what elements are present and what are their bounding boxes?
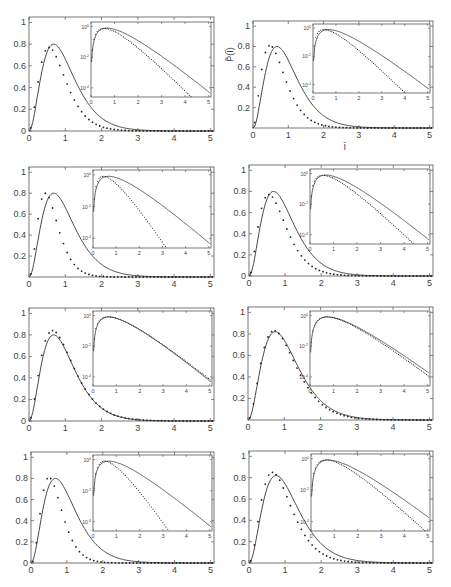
inset-data-point bbox=[130, 480, 131, 481]
inset-data-point bbox=[97, 323, 98, 324]
inset-x-tick-label: 5 bbox=[426, 533, 429, 539]
data-point bbox=[369, 275, 371, 277]
data-point bbox=[304, 535, 306, 537]
inset-data-point bbox=[120, 187, 121, 188]
inset-data-point bbox=[187, 93, 188, 94]
data-point bbox=[99, 406, 101, 408]
inset-data-point bbox=[360, 329, 361, 330]
inset-data-point bbox=[353, 326, 354, 327]
inset-data-point bbox=[108, 462, 109, 463]
inset-data-point bbox=[322, 317, 323, 318]
inset-data-point bbox=[313, 473, 314, 474]
data-point bbox=[257, 95, 259, 97]
inset-data-point bbox=[358, 195, 359, 196]
inset-data-point bbox=[312, 330, 313, 331]
data-point bbox=[342, 127, 344, 129]
inset-log-plot: 01234510010-210-4 bbox=[82, 170, 211, 256]
inset-data-point bbox=[409, 362, 410, 363]
data-point bbox=[416, 419, 418, 421]
data-point bbox=[117, 276, 119, 278]
data-point bbox=[121, 276, 123, 278]
inset-data-point bbox=[105, 176, 106, 177]
inset-data-point bbox=[319, 318, 320, 319]
inset-data-point bbox=[386, 219, 387, 220]
data-point bbox=[430, 419, 432, 421]
inset-x-tick-label: 2 bbox=[138, 250, 141, 256]
data-point bbox=[373, 562, 375, 564]
inset-data-point bbox=[165, 527, 166, 528]
inset-data-point bbox=[336, 34, 337, 35]
inset-data-point bbox=[393, 350, 394, 351]
inset-data-point bbox=[322, 29, 323, 30]
inset-data-point bbox=[131, 200, 132, 201]
data-point bbox=[381, 127, 383, 129]
data-point bbox=[34, 248, 36, 250]
data-point bbox=[179, 562, 181, 564]
inset-data-point bbox=[392, 81, 393, 82]
data-point bbox=[317, 123, 319, 125]
inset-x-tick-label: 5 bbox=[426, 246, 429, 252]
inset-data-point bbox=[375, 338, 376, 339]
inset-frame bbox=[93, 311, 212, 386]
inset-data-point bbox=[413, 364, 414, 365]
data-point bbox=[92, 274, 94, 276]
data-point bbox=[59, 337, 61, 339]
inset-data-point bbox=[164, 524, 165, 525]
inset-data-point bbox=[378, 211, 379, 212]
data-point bbox=[340, 414, 342, 416]
inset-data-point bbox=[408, 361, 409, 362]
data-point bbox=[135, 130, 137, 132]
inset-data-point bbox=[401, 510, 402, 511]
data-point bbox=[186, 562, 188, 564]
inset-data-point bbox=[396, 353, 397, 354]
data-point bbox=[200, 420, 202, 422]
inset-x-tick-label: 2 bbox=[357, 95, 360, 101]
inset-data-point bbox=[367, 57, 368, 58]
data-point bbox=[263, 347, 265, 349]
inset-data-point bbox=[363, 199, 364, 200]
data-point bbox=[150, 276, 152, 278]
inset-data-point bbox=[152, 228, 153, 229]
inset-y-tick-label: 100 bbox=[300, 313, 308, 319]
data-point bbox=[204, 420, 206, 422]
inset-log-plot: 01234510010-210-4 bbox=[300, 454, 430, 539]
inset-data-point bbox=[380, 492, 381, 493]
inset-data-point bbox=[354, 46, 355, 47]
data-point bbox=[303, 381, 305, 383]
data-point bbox=[182, 276, 184, 278]
inset-data-point bbox=[321, 175, 322, 176]
inset-data-point bbox=[149, 223, 150, 224]
data-point bbox=[300, 255, 302, 257]
inset-data-point bbox=[108, 316, 109, 317]
data-point bbox=[250, 272, 252, 274]
inset-data-point bbox=[128, 196, 129, 197]
y-tick-label: 0.4 bbox=[13, 83, 26, 93]
inset-data-point bbox=[342, 183, 343, 184]
data-point bbox=[314, 121, 316, 123]
inset-data-point bbox=[136, 488, 137, 489]
data-point bbox=[168, 562, 170, 564]
inset-data-point bbox=[419, 526, 420, 527]
data-point bbox=[333, 273, 335, 275]
inset-data-point bbox=[324, 175, 325, 176]
inset-data-point bbox=[385, 345, 386, 346]
data-point bbox=[347, 275, 349, 277]
data-point bbox=[147, 562, 149, 564]
inset-data-point bbox=[346, 467, 347, 468]
data-point bbox=[44, 50, 46, 52]
inset-x-tick-label: 1 bbox=[333, 533, 336, 539]
x-tick-label: 5 bbox=[427, 278, 432, 288]
data-point bbox=[264, 483, 266, 485]
inset-data-point bbox=[403, 357, 404, 358]
data-point bbox=[186, 276, 188, 278]
data-point bbox=[419, 419, 421, 421]
inset-data-point bbox=[318, 31, 319, 32]
data-point bbox=[55, 332, 57, 334]
data-point bbox=[296, 104, 298, 106]
inset-data-point bbox=[102, 461, 103, 462]
inset-data-point bbox=[107, 316, 108, 317]
data-point bbox=[193, 130, 195, 132]
data-point bbox=[117, 415, 119, 417]
data-point bbox=[282, 219, 284, 221]
inset-x-tick-label: 4 bbox=[403, 388, 406, 394]
